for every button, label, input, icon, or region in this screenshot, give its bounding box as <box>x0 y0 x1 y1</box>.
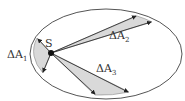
label-delta-a1: ΔA1 <box>7 48 27 63</box>
label-delta-a3: ΔA3 <box>96 62 116 77</box>
label-delta-a2: ΔA2 <box>109 29 129 44</box>
focus-sun-point <box>48 50 54 56</box>
kepler-diagram: S ΔA1 ΔA2 ΔA3 <box>0 0 185 101</box>
focus-label: S <box>45 37 53 50</box>
arrow-a2-end <box>51 22 151 53</box>
wedge-delta-a2 <box>51 16 152 53</box>
